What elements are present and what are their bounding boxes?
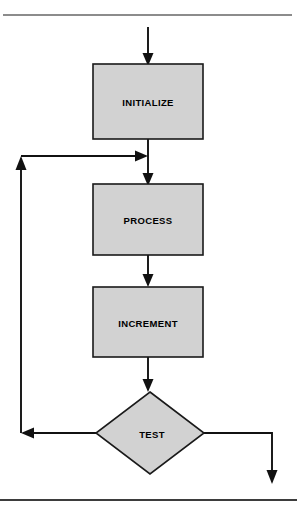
edge-loop-return-into-junction (21, 151, 148, 162)
arrowhead-left-icon (21, 428, 34, 439)
node-initialize[interactable]: INITIALIZE (93, 64, 203, 139)
arrowhead-down-icon (143, 274, 154, 287)
edge-increment-to-test (143, 357, 154, 392)
arrowhead-down-icon (143, 379, 154, 392)
flowchart-canvas: INITIALIZE PROCESS INCREMENT TEST (0, 0, 297, 510)
initialize-label: INITIALIZE (122, 97, 174, 108)
increment-label: INCREMENT (118, 318, 178, 329)
edge-test-exit-right (204, 433, 278, 484)
edge-initialize-to-process (143, 139, 154, 186)
edge-loop-riser-up (16, 156, 27, 433)
node-increment[interactable]: INCREMENT (93, 287, 203, 357)
arrowhead-down-icon (267, 470, 278, 484)
node-test[interactable]: TEST (96, 392, 204, 474)
edge-entry-to-initialize (143, 27, 154, 66)
process-label: PROCESS (124, 215, 173, 226)
arrowhead-right-icon (135, 151, 148, 162)
flowchart-figure: INITIALIZE PROCESS INCREMENT TEST (0, 0, 297, 510)
edge-test-loop-back-left (21, 428, 96, 439)
node-process[interactable]: PROCESS (93, 184, 203, 255)
arrowhead-up-icon (16, 156, 27, 170)
edge-process-to-increment (143, 255, 154, 287)
test-label: TEST (139, 429, 165, 440)
bottom-divider-rule (0, 499, 297, 501)
